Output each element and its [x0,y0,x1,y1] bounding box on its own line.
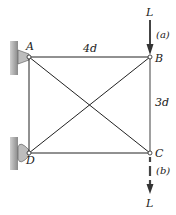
load-b-label: L [146,198,153,209]
node-label-b: B [155,53,163,64]
joint-b [148,55,152,59]
node-label-d: D [26,155,35,166]
dimension-horizontal: 4d [83,43,97,54]
joint-a [27,55,31,59]
load-b-case: (b) [156,166,170,176]
node-label-a: A [26,41,34,52]
load-b-arrowhead-icon [147,184,154,194]
truss-diagram [0,0,176,215]
wall-support-d [10,137,18,170]
load-a-arrowhead-icon [147,44,154,55]
dimension-vertical: 3d [155,97,169,108]
wall-support-a [10,41,18,75]
load-a-case: (a) [156,30,170,40]
node-label-c: C [155,148,163,159]
load-a-label: L [146,7,153,18]
joint-c [148,151,152,155]
